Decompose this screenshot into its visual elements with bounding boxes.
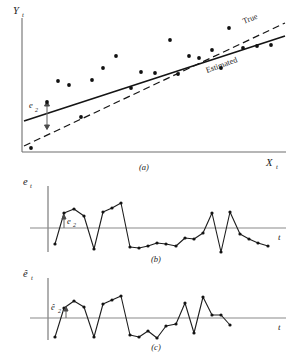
panel-a-y-axis-label: Y bbox=[13, 5, 20, 16]
residual-dot bbox=[174, 322, 177, 325]
scatter-dot bbox=[29, 146, 33, 150]
residual-dot bbox=[228, 210, 231, 213]
residual-dot bbox=[110, 206, 113, 209]
scatter-dot bbox=[241, 46, 245, 50]
panel-a-x-axis-label: X bbox=[265, 157, 273, 168]
residual-dot bbox=[183, 236, 186, 239]
panel-c-residual-path bbox=[55, 296, 230, 338]
true-line-label: True bbox=[241, 12, 259, 26]
residual-dot bbox=[128, 333, 131, 336]
residual-dot bbox=[201, 231, 204, 234]
scatter-dot bbox=[176, 72, 180, 76]
scatter-dot bbox=[114, 54, 118, 58]
residual-dot bbox=[219, 250, 222, 253]
residual-dot bbox=[110, 298, 113, 301]
panel-b-error-label: e bbox=[67, 216, 71, 226]
panel-a-caption: (a) bbox=[139, 162, 149, 172]
scatter-dot bbox=[255, 44, 259, 48]
panel-b-error-subscript: 2 bbox=[73, 222, 76, 228]
panel-c-error-label: ê bbox=[51, 302, 55, 312]
panel-c-error-subscript: 2 bbox=[58, 308, 61, 314]
residual-dot bbox=[164, 242, 167, 245]
residual-dot bbox=[164, 324, 167, 327]
true-line-label-group: True bbox=[241, 12, 259, 26]
scatter-dot bbox=[79, 115, 83, 119]
scatter-dot bbox=[219, 66, 223, 70]
residual-dot bbox=[192, 331, 195, 334]
panel-b-residual-arrow bbox=[62, 215, 66, 220]
panel-a-group: Y t X t True Estimated e 2 bbox=[13, 5, 286, 172]
panel-a-scatter-points bbox=[29, 26, 273, 150]
scatter-dot bbox=[210, 48, 214, 52]
residual-dot bbox=[228, 323, 231, 326]
residual-dot bbox=[101, 302, 104, 305]
panel-c-y-axis-label: ê bbox=[23, 268, 28, 279]
panel-c-y-axis-subscript: t bbox=[31, 274, 33, 281]
residual-dot bbox=[137, 335, 140, 338]
residual-dot bbox=[238, 232, 241, 235]
scatter-dot bbox=[227, 26, 231, 30]
scatter-dot bbox=[129, 86, 133, 90]
panel-b-x-axis-label: t bbox=[278, 232, 281, 242]
panel-a-error-subscript: 2 bbox=[35, 107, 38, 113]
residual-dot bbox=[219, 313, 222, 316]
regression-residuals-figure: Y t X t True Estimated e 2 bbox=[0, 0, 296, 352]
residual-dot bbox=[53, 242, 56, 245]
residual-dot bbox=[119, 294, 122, 297]
scatter-dot bbox=[269, 43, 273, 47]
residual-dot bbox=[183, 301, 186, 304]
estimated-line-label-group: Estimated bbox=[205, 55, 239, 75]
panel-b-y-axis-subscript: t bbox=[30, 182, 32, 189]
panel-c-group: ê t t bbox=[23, 268, 286, 352]
scatter-dot bbox=[56, 79, 60, 83]
residual-dot bbox=[53, 335, 56, 338]
scatter-dot bbox=[197, 56, 201, 60]
residual-dot bbox=[72, 207, 75, 210]
figure-container: Y t X t True Estimated e 2 bbox=[0, 0, 296, 352]
residual-dot bbox=[201, 295, 204, 298]
scatter-dot bbox=[187, 54, 191, 58]
estimated-regression-line bbox=[24, 36, 285, 121]
panel-c-x-axis-label: t bbox=[278, 322, 281, 332]
residual-dot bbox=[119, 201, 122, 204]
panel-b-caption: (b) bbox=[151, 254, 161, 264]
scatter-dot bbox=[45, 100, 49, 104]
residual-dot bbox=[256, 241, 259, 244]
residual-dot bbox=[155, 241, 158, 244]
residual-dot bbox=[92, 335, 95, 338]
residual-dot bbox=[146, 329, 149, 332]
residual-dot bbox=[247, 237, 250, 240]
residual-dot bbox=[155, 336, 158, 339]
residual-dot bbox=[137, 246, 140, 249]
residual-dot bbox=[146, 244, 149, 247]
scatter-dot bbox=[168, 38, 172, 42]
panel-b-y-axis-label: e bbox=[23, 176, 28, 187]
residual-dot bbox=[192, 237, 195, 240]
residual-dot bbox=[92, 247, 95, 250]
residual-dot bbox=[82, 214, 85, 217]
panel-b-group: e t t bbox=[23, 176, 286, 264]
residual-dot bbox=[101, 210, 104, 213]
residual-dot bbox=[210, 313, 213, 316]
true-regression-line bbox=[24, 23, 285, 146]
panel-a-residual-arrow-down bbox=[45, 125, 50, 130]
scatter-dot bbox=[67, 83, 71, 87]
panel-a-error-label: e bbox=[29, 100, 33, 110]
residual-dot bbox=[266, 244, 269, 247]
residual-dot bbox=[72, 299, 75, 302]
scatter-dot bbox=[153, 71, 157, 75]
panel-c-caption: (c) bbox=[151, 342, 161, 352]
residual-dot bbox=[210, 211, 213, 214]
scatter-dot bbox=[139, 70, 143, 74]
scatter-dot bbox=[90, 78, 94, 82]
residual-dot bbox=[174, 244, 177, 247]
scatter-dot bbox=[101, 66, 105, 70]
residual-dot bbox=[128, 245, 131, 248]
panel-a-x-axis-subscript: t bbox=[276, 163, 278, 170]
panel-a-y-axis-subscript: t bbox=[22, 11, 24, 18]
estimated-line-label: Estimated bbox=[205, 55, 239, 75]
residual-dot bbox=[82, 305, 85, 308]
